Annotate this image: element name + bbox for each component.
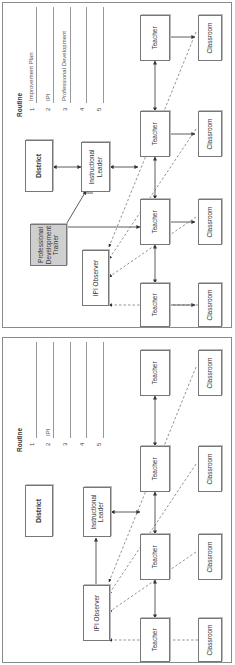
classroom-box-1: Classroom	[198, 283, 222, 327]
routine-num-2: 2	[45, 108, 51, 111]
teacher-box-4: Teacher	[140, 15, 170, 61]
routine-text-1: Improvement Plan	[28, 52, 34, 101]
routine-line-3	[70, 342, 71, 438]
routine-title: Routine	[16, 93, 23, 117]
routine-line-5	[103, 7, 104, 103]
routine-text-2: IPI	[45, 94, 51, 101]
diagram-panel-with-trainer: District Instructional Leader Profession…	[2, 2, 232, 328]
ipi-observer-box: IPI Observer	[83, 585, 110, 641]
routine-num-5: 5	[96, 108, 102, 111]
routine-num-5: 5	[96, 443, 102, 446]
routine-text-2: IPI	[45, 429, 51, 436]
routine-num-3: 3	[62, 108, 68, 111]
classroom-box-2: Classroom	[198, 534, 222, 580]
classroom-box-2: Classroom	[198, 199, 222, 245]
instructional-leader-box: Instructional Leader	[83, 487, 111, 537]
classroom-box-4: Classroom	[198, 15, 222, 61]
teacher-box-2: Teacher	[140, 534, 170, 580]
classroom-box-4: Classroom	[198, 350, 222, 396]
classroom-box-1: Classroom	[198, 618, 222, 662]
teacher-box-1: Teacher	[140, 283, 170, 327]
routine-line-2	[53, 342, 54, 438]
teacher-box-3: Teacher	[140, 446, 170, 492]
teacher-box-3: Teacher	[140, 111, 170, 157]
routine-line-2	[53, 7, 54, 103]
diagram-panel-without-trainer: District Instructional Leader IPI Observ…	[2, 337, 232, 663]
classroom-box-3: Classroom	[198, 111, 222, 157]
routine-line-1	[36, 7, 37, 103]
routine-num-4: 4	[79, 108, 85, 111]
teacher-box-4: Teacher	[140, 350, 170, 396]
teacher-box-1: Teacher	[140, 618, 170, 662]
routine-line-4	[86, 7, 87, 103]
instructional-leader-box: Instructional Leader	[81, 142, 110, 192]
classroom-box-3: Classroom	[198, 446, 222, 492]
routine-text-3: Professional Development	[61, 31, 67, 101]
routine-num-2: 2	[45, 443, 51, 446]
routine-num-1: 1	[29, 108, 35, 111]
professional-development-trainer-box: Professional Development Trainer	[30, 224, 67, 266]
routine-title: Routine	[16, 428, 23, 452]
routine-line-4	[86, 342, 87, 438]
ipi-observer-box: IPI Observer	[82, 250, 109, 306]
routine-num-4: 4	[79, 443, 85, 446]
routine-num-3: 3	[62, 443, 68, 446]
routine-line-5	[103, 342, 104, 438]
routine-line-3	[70, 7, 71, 103]
district-box: District	[25, 485, 53, 537]
district-box: District	[25, 140, 53, 192]
routine-num-1: 1	[29, 443, 35, 446]
routine-line-1	[36, 342, 37, 438]
teacher-box-2: Teacher	[140, 199, 170, 245]
